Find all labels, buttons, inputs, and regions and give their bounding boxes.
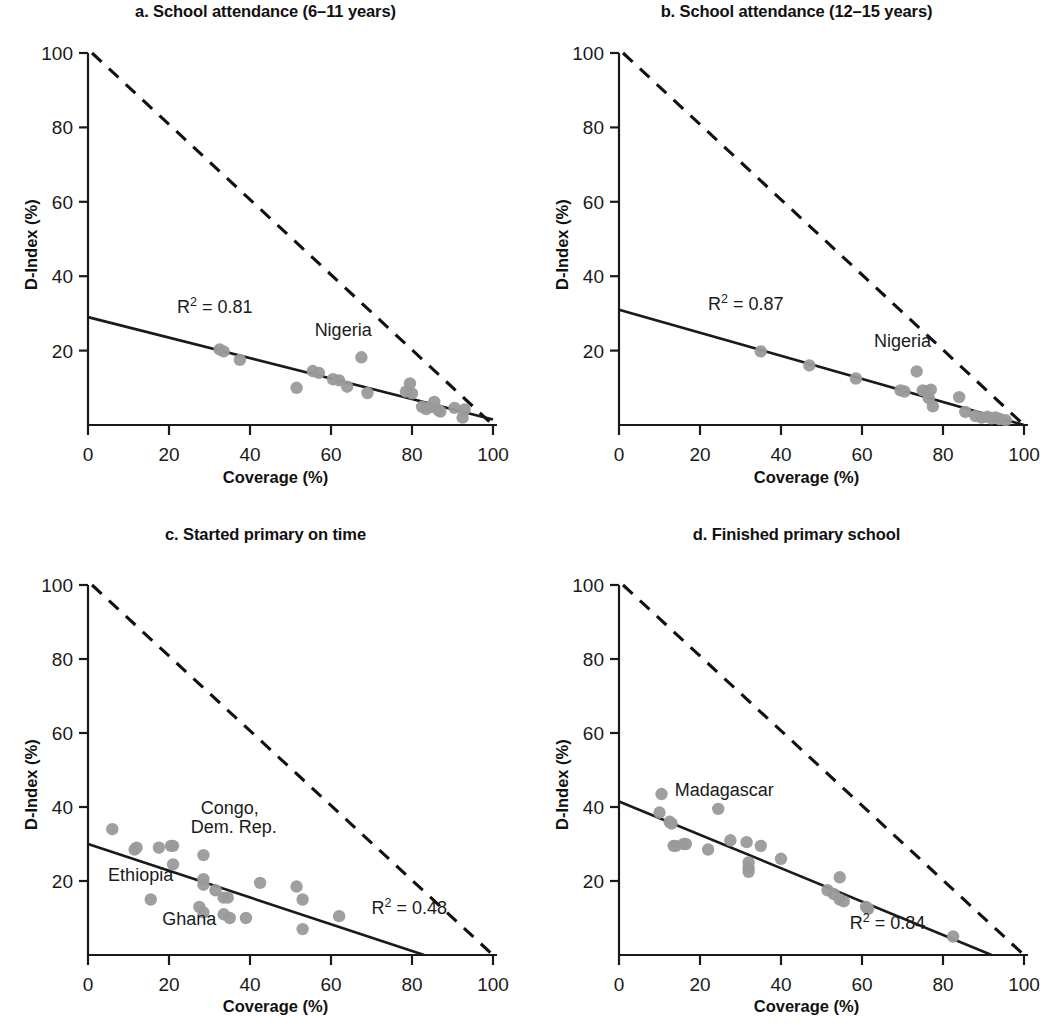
data-point[interactable] [755, 840, 767, 852]
r-squared-value: = 0.84 [870, 913, 926, 933]
data-point[interactable] [197, 879, 209, 891]
data-point[interactable] [803, 359, 815, 371]
data-point[interactable] [910, 365, 922, 377]
data-point[interactable] [222, 891, 234, 903]
data-point[interactable] [742, 866, 754, 878]
data-point[interactable] [953, 391, 965, 403]
y-tick-label: 20 [52, 871, 73, 892]
data-point[interactable] [724, 834, 736, 846]
data-point[interactable] [224, 912, 236, 924]
panel-c-yaxis-title: D-Index (%) [22, 739, 41, 830]
y-tick-label: 40 [583, 266, 604, 287]
panel-a: a. School attendance (6–11 years) 204060… [0, 0, 531, 510]
x-tick-label: 60 [320, 444, 341, 465]
data-point[interactable] [130, 842, 142, 854]
data-point[interactable] [167, 840, 179, 852]
x-tick-label: 60 [851, 444, 872, 465]
panel-a-yaxis-title: D-Index (%) [22, 199, 41, 290]
data-point[interactable] [947, 930, 959, 942]
data-point[interactable] [838, 895, 850, 907]
data-point[interactable] [145, 893, 157, 905]
data-point[interactable] [341, 380, 353, 392]
x-tick-label: 40 [239, 974, 260, 995]
r-squared-value: = 0.81 [197, 297, 253, 317]
data-points-group [213, 343, 470, 423]
data-point[interactable] [702, 843, 714, 855]
data-point[interactable] [1000, 414, 1012, 426]
figure-container: a. School attendance (6–11 years) 204060… [0, 0, 1063, 1033]
x-tick-label: 20 [158, 974, 179, 995]
x-tick-label: 40 [770, 974, 791, 995]
data-point[interactable] [153, 842, 165, 854]
data-point[interactable] [290, 880, 302, 892]
data-point[interactable] [665, 817, 677, 829]
y-tick-label: 20 [52, 341, 73, 362]
x-tick-label: 0 [83, 974, 94, 995]
r-squared-exponent: 2 [385, 896, 392, 910]
data-point[interactable] [850, 372, 862, 384]
y-tick-label: 100 [41, 575, 73, 596]
data-point[interactable] [755, 345, 767, 357]
y-tick-label: 40 [52, 797, 73, 818]
y-tick-label: 80 [583, 649, 604, 670]
panel-b-yaxis-title: D-Index (%) [553, 199, 572, 290]
max-dissimilarity-line [623, 585, 1024, 955]
data-point[interactable] [296, 893, 308, 905]
panel-d-yaxis-title: D-Index (%) [553, 739, 572, 830]
data-point[interactable] [234, 354, 246, 366]
data-point[interactable] [240, 912, 252, 924]
panel-a-plot: 20406080100020406080100NigeriaR2 = 0.81 [0, 0, 531, 523]
country-annotation: Nigeria [874, 331, 932, 351]
data-point[interactable] [740, 836, 752, 848]
y-tick-label: 80 [52, 117, 73, 138]
r-squared-label: R2 = 0.81 [177, 295, 253, 317]
r-squared-r: R [850, 913, 863, 933]
data-point[interactable] [680, 838, 692, 850]
data-point[interactable] [834, 871, 846, 883]
r-squared-label: R2 = 0.48 [372, 896, 448, 918]
data-point[interactable] [434, 405, 446, 417]
data-point[interactable] [712, 803, 724, 815]
data-point[interactable] [254, 877, 266, 889]
data-point[interactable] [406, 387, 418, 399]
country-annotation: Dem. Rep. [191, 817, 277, 837]
data-point[interactable] [927, 400, 939, 412]
data-point[interactable] [106, 823, 118, 835]
data-point[interactable] [925, 383, 937, 395]
country-annotation: Nigeria [315, 320, 373, 340]
x-tick-label: 100 [477, 974, 509, 995]
panel-b-plot: 20406080100020406080100NigeriaR2 = 0.87 [531, 0, 1062, 523]
country-annotation: Ghana [162, 909, 217, 929]
data-point[interactable] [333, 910, 345, 922]
data-point[interactable] [458, 403, 470, 415]
y-tick-label: 40 [52, 266, 73, 287]
data-point[interactable] [290, 382, 302, 394]
x-tick-label: 0 [614, 444, 625, 465]
data-point[interactable] [296, 923, 308, 935]
x-tick-label: 80 [401, 444, 422, 465]
data-point[interactable] [361, 387, 373, 399]
r-squared-r: R [372, 898, 385, 918]
r-squared-label: R2 = 0.84 [850, 911, 926, 933]
r-squared-r: R [708, 294, 721, 314]
data-point[interactable] [653, 806, 665, 818]
data-point[interactable] [775, 853, 787, 865]
x-tick-label: 80 [932, 974, 953, 995]
x-tick-label: 60 [851, 974, 872, 995]
data-point[interactable] [898, 385, 910, 397]
y-tick-label: 60 [583, 723, 604, 744]
data-point[interactable] [217, 345, 229, 357]
y-tick-label: 60 [52, 723, 73, 744]
data-point[interactable] [197, 849, 209, 861]
country-annotation: Madagascar [675, 780, 774, 800]
y-tick-label: 80 [52, 649, 73, 670]
x-tick-label: 40 [770, 444, 791, 465]
data-point[interactable] [313, 367, 325, 379]
y-tick-label: 20 [583, 341, 604, 362]
x-tick-label: 20 [158, 444, 179, 465]
data-point[interactable] [355, 351, 367, 363]
panel-c-xaxis-title: Coverage (%) [40, 997, 511, 1016]
x-tick-label: 60 [320, 974, 341, 995]
data-point[interactable] [655, 788, 667, 800]
country-annotation: Congo, [201, 798, 259, 818]
